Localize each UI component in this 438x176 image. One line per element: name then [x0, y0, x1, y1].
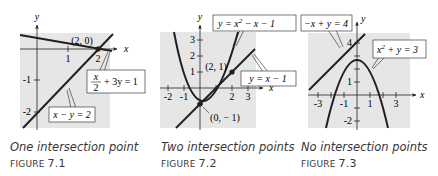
caption-title: No intersection points [301, 140, 427, 154]
intersection-point [197, 101, 202, 106]
point-label: (0, − 1) [210, 112, 240, 124]
x-tick-label: -3 [314, 98, 322, 109]
x-tick-label: 1 [368, 98, 373, 109]
figure-number: FIGURE 7.2 [161, 157, 294, 170]
figure-number: FIGURE 7.3 [301, 157, 427, 170]
y-tick-label: -2 [23, 106, 31, 117]
x-tick-label: 3 [246, 91, 251, 102]
svg-text:2: 2 [94, 82, 99, 93]
intersection-point [95, 46, 100, 51]
figure-7-2-plot: -2 -1 2 3 1 2 3 x y (2, 1) (0, − 1) y = … [160, 11, 296, 130]
figure-7-1-caption: One intersection point FIGURE 7.1 [10, 140, 138, 170]
svg-text:y = x2 − x − 1: y = x2 − x − 1 [217, 17, 275, 29]
y-tick-label: 2 [190, 50, 195, 61]
caption-title: One intersection point [10, 140, 138, 154]
svg-text:−x + y = 4: −x + y = 4 [304, 18, 348, 29]
x-tick-label: 2 [230, 91, 235, 102]
svg-text:x: x [93, 71, 99, 82]
x-tick-label: -1 [180, 91, 188, 102]
figure-7-3-plot: -3 -1 1 3 4 1 -2 x y −x + y = 4 x2 + y =… [301, 13, 426, 130]
point-label: (2, 1) [205, 61, 227, 73]
y-tick-label: 1 [190, 66, 195, 77]
svg-text:y = x − 1: y = x − 1 [248, 73, 286, 84]
svg-text:+ 3y = 1: + 3y = 1 [104, 76, 138, 87]
y-axis-label: y [360, 13, 366, 24]
x-tick-label: 3 [394, 98, 399, 109]
y-axis-label: y [34, 11, 40, 22]
figure-number: FIGURE 7.1 [10, 157, 138, 170]
y-axis-label: y [197, 11, 203, 22]
y-tick-label: -1 [23, 74, 31, 85]
figure-7-1-plot: 1 2 -1 -2 x y (2, 0) x 2 + 3y = 1 x − y … [20, 11, 145, 130]
figure-7-3-caption: No intersection points FIGURE 7.3 [301, 140, 427, 170]
y-tick-label: 1 [347, 76, 352, 87]
caption-title: Two intersection points [161, 140, 294, 154]
x-tick-label: -2 [164, 91, 172, 102]
figure-7-2-caption: Two intersection points FIGURE 7.2 [161, 140, 294, 170]
x-axis-label: x [123, 43, 129, 54]
intersection-point [229, 69, 234, 74]
point-label: (2, 0) [71, 35, 93, 47]
svg-text:x − y = 2: x − y = 2 [52, 109, 90, 120]
y-tick-label: 3 [190, 34, 195, 45]
x-tick-label: 1 [66, 53, 71, 64]
x-axis-label: x [419, 89, 425, 100]
y-tick-label: -2 [344, 115, 352, 126]
x-tick-label: -1 [340, 98, 348, 109]
x-tick-label: 2 [96, 53, 101, 64]
